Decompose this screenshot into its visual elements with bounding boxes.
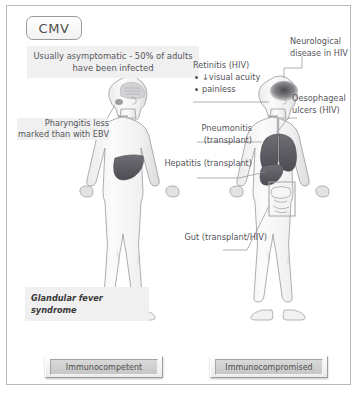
label-gut: Gut (transplant/HIV) [179, 232, 267, 244]
label-glandular-fever: Glandular fever syndrome [25, 287, 149, 321]
diagram-title: CMV [26, 16, 82, 40]
panel-label-immunocompetent: Immunocompetent [45, 356, 163, 378]
retinitis-bullet-visual-acuity: ↓visual acuity [202, 72, 285, 84]
label-pharyngitis: Pharyngitis less marked than with EBV [17, 118, 109, 140]
retinitis-title: Retinitis (HIV) [193, 60, 285, 71]
figure-immunocompetent [68, 76, 179, 320]
label-retinitis: Retinitis (HIV) ↓visual acuity painless [193, 60, 285, 95]
retinitis-bullet-painless: painless [202, 84, 285, 96]
immunocompromised-text: Immunocompromised [215, 359, 323, 375]
label-neurological-disease: Neurological disease in HIV [290, 36, 359, 59]
leader-neurological [284, 56, 302, 78]
banner-text: Usually asymptomatic - 50% of adults hav… [27, 46, 199, 78]
label-hepatitis: Hepatitis (transplant) [164, 158, 252, 170]
diagram-frame: CMV Usually asymptomatic - 50% of adults… [6, 5, 351, 385]
panel-label-immunocompromised: Immunocompromised [210, 356, 328, 378]
label-pneumonitis: Pneumonitis (transplant) [164, 123, 252, 146]
label-oesophageal-ulcers: Oesophageal ulcers (HIV) [292, 93, 359, 116]
immunocompetent-text: Immunocompetent [50, 359, 158, 375]
